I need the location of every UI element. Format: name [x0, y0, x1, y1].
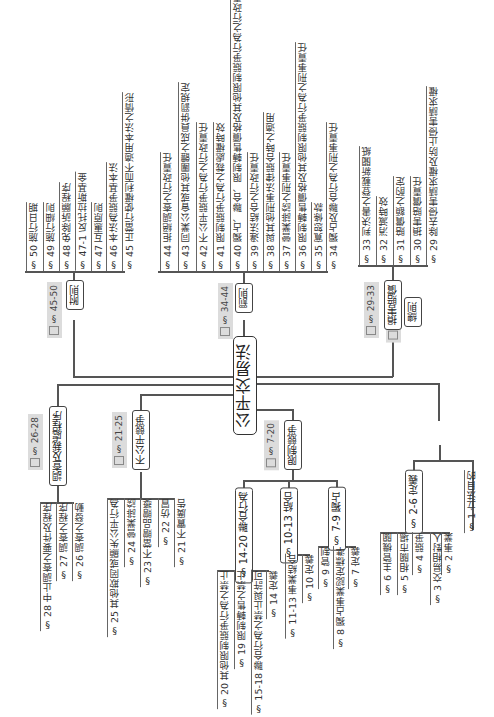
- leaf-s40[interactable]: § 40 獨占、聯合、限制轉售價格及其他限制競爭行為之行政責任: [230, 0, 244, 271]
- leaf-s45[interactable]: § 45 正當行使權利而不適用本法之情形: [122, 92, 136, 271]
- connector: [140, 394, 233, 396]
- leaf-s39[interactable]: § 39 違法結合之行政責任: [247, 152, 261, 271]
- leaf-s46[interactable]: § 46 本法為競爭基本法: [106, 162, 120, 271]
- range-label: § 21-25: [114, 415, 124, 454]
- leaf-s10[interactable]: § 10 定義: [302, 554, 316, 603]
- leaf-s36[interactable]: § 36 限制轉售價格及其他限制競爭行為之刑事責任: [295, 42, 309, 271]
- branch-restraint-of-competition[interactable]: 限制競爭: [284, 420, 302, 470]
- connector: [253, 383, 439, 385]
- leaf-s47[interactable]: § 47 互惠原則: [91, 202, 105, 271]
- leaf-s7[interactable]: § 7 定義: [348, 546, 362, 589]
- note-icon: [266, 458, 276, 467]
- leaf-s1[interactable]: § 1 立法目的: [464, 470, 478, 533]
- branch-supplementary[interactable]: 附則: [66, 280, 84, 310]
- leaf-s19[interactable]: § 19 限制轉售之禁止: [234, 570, 248, 669]
- branch-penalties[interactable]: 罰則: [235, 283, 253, 313]
- leaf-s35[interactable]: § 35 寬恕條款: [311, 202, 325, 271]
- note-icon: [30, 458, 40, 467]
- leaf-s27[interactable]: § 27 調查之程序: [56, 502, 70, 581]
- mindmap-canvas: 公平交易法 總則 § 1-6 損害賠償 § 29-33 罰則 § 34-44 附…: [0, 0, 494, 717]
- connector: [439, 445, 441, 460]
- leaf-s47-1[interactable]: § 47-1 反托拉斯基金: [75, 172, 89, 271]
- subnode-monopoly-7-9[interactable]: § 7-9 獨占: [328, 487, 346, 551]
- leaf-s22[interactable]: § 22 仿冒: [158, 498, 172, 547]
- leaf-s33[interactable]: § 33 判決書之登載新聞紙: [359, 146, 373, 265]
- connector: [243, 480, 337, 482]
- connector: [438, 383, 440, 421]
- leaf-s48[interactable]: § 48 免除訴願程序: [59, 182, 73, 271]
- range-label: § 26-28: [30, 417, 40, 456]
- leaf-s8[interactable]: § 8 獨占事業認定標準: [333, 546, 347, 649]
- connector: [57, 384, 59, 406]
- leaf-s31[interactable]: § 31 賠償額之酌定: [393, 176, 407, 265]
- connector: [392, 265, 394, 281]
- range-tag-unfair: § 21-25: [112, 412, 127, 468]
- connector: [253, 376, 393, 378]
- branch-unfair-competition[interactable]: 不公平競爭: [132, 410, 150, 470]
- connector: [57, 384, 233, 386]
- connector: [140, 472, 142, 498]
- leaf-s15-18[interactable]: § 15-18 聯合行為之禁止與許可: [251, 570, 265, 715]
- leaf-s49[interactable]: § 49 施行細則: [43, 202, 57, 271]
- leaf-s38[interactable]: § 38 與其他刑事法律競合時之適用: [263, 112, 277, 271]
- range-tag-investigation: § 26-28: [28, 414, 43, 470]
- leaf-s25[interactable]: § 25 其他欺罔或顯失公平行為: [107, 498, 121, 637]
- connector: [413, 460, 473, 462]
- note-icon: [388, 331, 398, 340]
- connector: [73, 320, 75, 377]
- leaf-s6[interactable]: § 6 主管機關: [380, 532, 394, 595]
- leaf-s14[interactable]: § 14 定義: [266, 570, 280, 619]
- connector: [253, 409, 293, 411]
- leaf-s20[interactable]: § 20 其他限制競爭行為之禁止: [217, 570, 231, 709]
- leaf-s34[interactable]: § 34 獨占及聯合行為之刑事責任: [326, 122, 340, 271]
- leaf-s41[interactable]: § 41 限制競爭行為之裁處權時效: [213, 122, 227, 271]
- leaf-s43[interactable]: § 43 同業公會或其他團體之成員併罰規定: [178, 82, 192, 271]
- connector: [25, 271, 125, 273]
- subnode-merger-10-13[interactable]: § 10-13 結合: [280, 487, 298, 563]
- leaf-s5[interactable]: § 5 相關市場: [397, 532, 411, 595]
- leaf-s32[interactable]: § 32 消滅時效: [376, 196, 390, 265]
- range-label: § 7-20: [266, 423, 276, 456]
- branch-investigation-procedure[interactable]: 調查及裁處程序: [49, 406, 67, 486]
- leaf-s3[interactable]: § 3 交易相對人: [430, 532, 444, 605]
- leaf-s24[interactable]: § 24 營業誹謗: [124, 498, 138, 567]
- note-icon: [49, 326, 59, 335]
- connector: [243, 271, 245, 283]
- connector: [73, 376, 233, 378]
- note-icon: [366, 326, 376, 335]
- leaf-s26[interactable]: § 26 調查之發動: [72, 502, 86, 581]
- range-label: § 45-50: [49, 285, 59, 324]
- subnode-definitions-2-6[interactable]: § 2-6 定義: [405, 470, 423, 534]
- leaf-s4[interactable]: § 4 競爭: [412, 532, 426, 575]
- subnode-concerted-14-20[interactable]: § 14-20 聯合行為: [235, 487, 253, 583]
- leaf-s9[interactable]: § 9 管制: [318, 546, 332, 589]
- range-tag-restraint: § 7-20: [264, 420, 279, 470]
- leaf-s21[interactable]: § 21 不實廣告: [174, 498, 188, 567]
- range-label: § 29-33: [366, 285, 376, 324]
- leaf-s29[interactable]: § 29 除去侵害請求權及防止侵害請求權: [426, 86, 440, 265]
- leaf-s28[interactable]: § 28 中止調查之要件及程序: [40, 502, 54, 631]
- branch-general-provisions[interactable]: 總則: [404, 297, 422, 327]
- leaf-s23[interactable]: § 23 不當贈品贈獎: [140, 498, 154, 587]
- range-tag-penalties: § 34-44: [218, 283, 233, 339]
- range-tag-damages: § 29-33: [364, 282, 379, 338]
- leaf-s50[interactable]: § 50 施行日期: [26, 202, 40, 271]
- leaf-s44[interactable]: § 44 拒絕調查之行政責任: [160, 152, 174, 271]
- note-icon: [114, 456, 124, 465]
- range-label: § 34-44: [220, 286, 230, 325]
- leaf-s11-13[interactable]: § 11-13 事業結合: [285, 554, 299, 639]
- note-icon: [220, 327, 230, 336]
- leaf-s37[interactable]: § 37 營業誹謗之刑事責任: [279, 152, 293, 271]
- leaf-s30[interactable]: § 30 損害賠償責任: [410, 176, 424, 265]
- leaf-s42[interactable]: § 42 不公平競爭行為之行政責任: [196, 122, 210, 271]
- branch-damages[interactable]: 損害賠償: [384, 280, 402, 330]
- root-node[interactable]: 公平交易法: [233, 336, 257, 435]
- range-tag-supplementary: § 45-50: [47, 282, 62, 338]
